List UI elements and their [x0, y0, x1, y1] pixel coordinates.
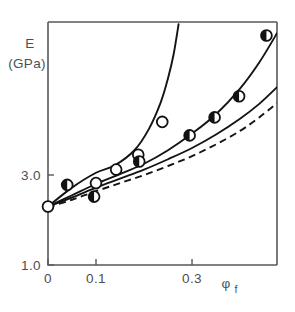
data-point-open-circle: [111, 164, 122, 175]
data-point-open-circle: [91, 178, 102, 189]
curve-lower-solid-curve: [48, 87, 277, 206]
y-tick-label: 1.0: [21, 258, 41, 273]
data-point-open-circle: [157, 117, 168, 128]
line-chart: 1.03.000.10.3E(GPa)φf: [0, 0, 295, 312]
x-tick-label: 0.1: [86, 271, 106, 286]
axis-frame: [48, 22, 277, 265]
x-axis-label-subscript: f: [234, 283, 237, 295]
y-axis-label-line2: (GPa): [8, 56, 46, 71]
x-tick-label: 0: [44, 271, 52, 286]
x-tick-label: 0.3: [182, 271, 202, 286]
y-tick-label: 3.0: [21, 168, 41, 183]
figure-container: 1.03.000.10.3E(GPa)φf: [0, 0, 295, 312]
x-axis-label: φ: [221, 276, 230, 291]
data-point-open-circle: [43, 201, 54, 212]
y-axis-label-line1: E: [25, 36, 34, 51]
